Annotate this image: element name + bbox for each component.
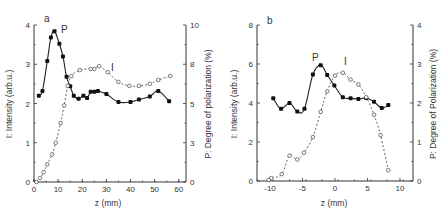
panel-label-b: b: [267, 15, 273, 26]
panel-label-a: a: [44, 13, 50, 24]
y-axis-title-b: I: Intensity (arb.u.): [229, 70, 239, 139]
y-axis-right-title-b: P: Degree of Polarization (%): [428, 49, 438, 159]
y-axis-right-title-a: P: Degree of polarization (%): [203, 49, 213, 158]
y-axis-title-a: I: Intensity (arb.u.): [4, 70, 14, 139]
x-axis-title-b: z (mm): [321, 198, 348, 208]
series-label-i-a: I: [111, 62, 114, 73]
series-label-p-b: P: [312, 52, 319, 63]
x-axis-title-a: z (mm): [95, 198, 122, 208]
series-label-i-b: I: [344, 56, 347, 67]
series-label-p-a: P: [61, 24, 68, 35]
figure-labels: a P I z (mm) I: Intensity (arb.u.) P: De…: [0, 0, 448, 216]
